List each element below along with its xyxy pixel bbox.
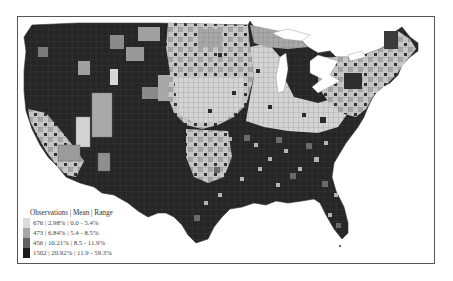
- legend-item: 473 | 6.84% | 5.4 - 8.5%: [23, 228, 113, 238]
- legend-label: 1502 | 20.92% | 11.9 - 59.3%: [33, 248, 112, 258]
- legend-item: 676 | 2.98% | 0.0 - 5.4%: [23, 218, 113, 228]
- map-legend: Observations | Mean | Range 676 | 2.98% …: [21, 207, 117, 260]
- legend-label: 473 | 6.84% | 5.4 - 8.5%: [33, 228, 99, 238]
- legend-item: 1502 | 20.92% | 11.9 - 59.3%: [23, 248, 113, 258]
- legend-label: 676 | 2.98% | 0.0 - 5.4%: [33, 218, 99, 228]
- legend-swatch: [23, 218, 30, 228]
- legend-swatch: [23, 248, 30, 258]
- map-frame: Observations | Mean | Range 676 | 2.98% …: [17, 16, 435, 264]
- legend-swatch: [23, 238, 30, 248]
- legend-item: 456 | 10.21% | 8.5 - 11.9%: [23, 238, 113, 248]
- region-northeast: [318, 31, 416, 117]
- legend-swatch: [23, 228, 30, 238]
- legend-title: Observations | Mean | Range: [30, 209, 113, 218]
- legend-label: 456 | 10.21% | 8.5 - 11.9%: [33, 238, 105, 248]
